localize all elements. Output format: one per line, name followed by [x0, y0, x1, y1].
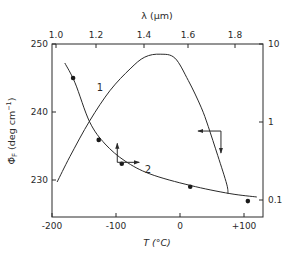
top-tick-label: 1.2: [89, 30, 103, 40]
axis-indicator-arrows: [117, 131, 221, 162]
bottom-tick-label: -100: [106, 221, 127, 231]
bottom-tick-label: -200: [42, 221, 63, 231]
data-point: [188, 185, 193, 190]
top-axis-ticks: 1.01.21.41.61.8: [49, 30, 243, 48]
left-tick-label: 250: [31, 39, 48, 49]
top-axis-title: λ (μm): [141, 10, 172, 21]
right-tick-label: 0.1: [268, 195, 282, 205]
left-tick-label: 240: [31, 107, 48, 117]
data-point: [246, 199, 251, 204]
bottom-axis-ticks: -200-1000+100: [42, 213, 257, 231]
top-tick-label: 1.4: [137, 30, 152, 40]
right-axis-ticks: 1010.1: [259, 39, 282, 205]
bottom-axis-title: T (°C): [143, 237, 171, 248]
series-group: 12: [57, 54, 257, 197]
curve-1: [57, 54, 228, 194]
chart: 1.01.21.41.61.8 λ (μm) -200-1000+100 T (…: [0, 0, 292, 260]
bottom-tick-label: 0: [177, 221, 183, 231]
top-tick-label: 1.8: [228, 30, 243, 40]
right-tick-label: 10: [268, 39, 280, 49]
left-tick-label: 230: [31, 175, 48, 185]
curve-2: [65, 63, 257, 197]
bottom-tick-label: +100: [232, 221, 257, 231]
curve-label-1: 1: [97, 82, 103, 93]
curve-label-2: 2: [145, 164, 151, 175]
top-tick-label: 1.6: [181, 30, 196, 40]
top-tick-label: 1.0: [49, 30, 64, 40]
left-axis-title: Φ̄F (deg cm−1): [5, 98, 19, 165]
data-point: [71, 76, 76, 81]
right-tick-label: 1: [268, 117, 274, 127]
data-points: [71, 76, 250, 204]
data-point: [96, 138, 101, 143]
